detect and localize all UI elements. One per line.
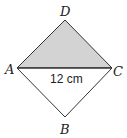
vertex-label-b: B: [59, 122, 70, 137]
shaded-triangle-adc: [17, 20, 112, 68]
square-diagram: D A C B 12 cm: [0, 0, 127, 138]
vertex-label-d: D: [59, 4, 71, 19]
vertex-label-c: C: [113, 64, 123, 79]
vertex-label-a: A: [4, 62, 14, 77]
diagonal-length-label: 12 cm: [50, 72, 83, 86]
